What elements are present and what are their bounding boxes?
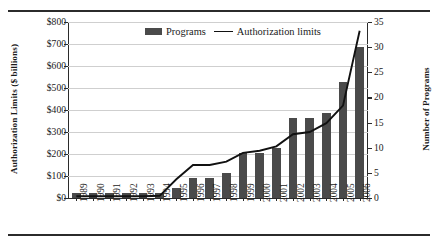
x-axis-tick-label: 2006 (363, 183, 372, 202)
x-axis-tick-label: 1996 (197, 183, 206, 202)
legend-label-programs: Programs (166, 26, 206, 37)
legend-item-authorization-limits: Authorization limits (214, 26, 321, 37)
x-axis-tick-label: 1997 (213, 183, 222, 202)
x-axis-tick-label: 1999 (247, 183, 256, 202)
y-axis-right-tick-label: 0 (374, 193, 379, 203)
y-axis-right-tick-label: 25 (374, 67, 384, 77)
y-axis-right-tick-mark (368, 173, 372, 174)
y-axis-right-tick-mark (368, 47, 372, 48)
line-path (76, 31, 359, 196)
line-swatch-icon (214, 31, 233, 32)
y-axis-right-tick-label: 30 (374, 42, 384, 52)
y-axis-right-tick-mark (368, 72, 372, 73)
y-axis-right-tick-mark (368, 123, 372, 124)
y-axis-left-title: Authorization Limits ($ billions) (9, 23, 19, 195)
x-axis-tick-mark (343, 198, 344, 201)
y-axis-right-tick-mark (368, 97, 372, 98)
x-axis-tick-mark (110, 198, 111, 201)
x-axis-tick-mark (193, 198, 194, 201)
x-axis-tick-mark (126, 198, 127, 201)
y-axis-right-tick-label: 10 (374, 143, 384, 153)
x-axis-tick-mark (243, 198, 244, 201)
x-axis-tick-label: 1991 (113, 183, 122, 202)
x-axis-tick-label: 1994 (163, 183, 172, 202)
authorization-limits-line (68, 22, 368, 198)
line-series-authorization-limits (68, 22, 368, 198)
y-axis-right-tick-label: 35 (374, 17, 384, 27)
y-axis-right-tick-label: 20 (374, 92, 384, 102)
y-axis-left-tick-mark (64, 198, 68, 199)
x-axis-tick-label: 1995 (180, 183, 189, 202)
x-axis-tick-label: 2002 (297, 183, 306, 202)
legend-label-authorization-limits: Authorization limits (237, 26, 321, 37)
bar-swatch-icon (145, 28, 162, 35)
x-axis-tick-mark (326, 198, 327, 201)
x-axis-tick-mark (93, 198, 94, 201)
x-axis-tick-label: 2000 (263, 183, 272, 202)
x-axis-tick-mark (226, 198, 227, 201)
x-axis-tick-label: 1990 (97, 183, 106, 202)
y-axis-right-tick-label: 15 (374, 118, 384, 128)
bottom-rule (8, 234, 430, 236)
x-axis-tick-mark (76, 198, 77, 201)
x-axis-tick-mark (260, 198, 261, 201)
chart-figure: Authorization Limits ($ billions) Number… (0, 0, 438, 245)
x-axis-tick-label: 2004 (330, 183, 339, 202)
y-axis-right-tick-mark (368, 22, 372, 23)
x-axis-tick-label: 1992 (130, 183, 139, 202)
chart-legend: Programs Authorization limits (145, 26, 321, 37)
x-axis-tick-mark (276, 198, 277, 201)
x-axis-tick-mark (310, 198, 311, 201)
plot-area (68, 22, 368, 198)
x-axis-tick-label: 1989 (80, 183, 89, 202)
x-axis-tick-label: 1993 (147, 183, 156, 202)
y-axis-right-tick-label: 5 (374, 168, 379, 178)
x-axis-tick-label: 1998 (230, 183, 239, 202)
x-axis-tick-label: 2001 (280, 183, 289, 202)
legend-item-programs: Programs (145, 26, 206, 37)
x-axis-tick-mark (160, 198, 161, 201)
x-axis-tick-mark (210, 198, 211, 201)
x-axis-tick-mark (293, 198, 294, 201)
top-rule (8, 10, 430, 12)
x-axis-tick-mark (176, 198, 177, 201)
x-axis-tick-mark (143, 198, 144, 201)
y-axis-right-tick-mark (368, 148, 372, 149)
x-axis-tick-label: 2005 (347, 183, 356, 202)
x-axis-tick-mark (360, 198, 361, 201)
x-axis-tick-label: 2003 (313, 183, 322, 202)
y-axis-right-title: Number of Programs (421, 23, 431, 195)
